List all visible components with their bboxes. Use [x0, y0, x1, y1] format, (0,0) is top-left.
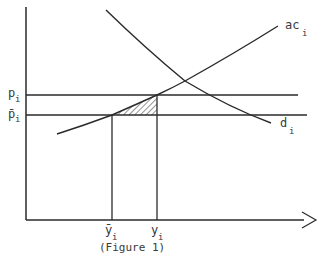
d-label: d [280, 116, 287, 130]
figure-caption: (Figure 1) [99, 241, 165, 254]
figure-diagram: ac i d i p i p̄ i ȳ i y i (Figure 1) [0, 0, 323, 259]
ac-curve [57, 26, 278, 134]
d-subscript: i [289, 126, 294, 136]
p-bar-subscript: i [15, 114, 20, 124]
ac-subscript: i [302, 28, 307, 38]
p-subscript: i [15, 94, 20, 104]
x-axis-arrow-icon [302, 212, 316, 228]
ac-label: ac [285, 18, 299, 32]
